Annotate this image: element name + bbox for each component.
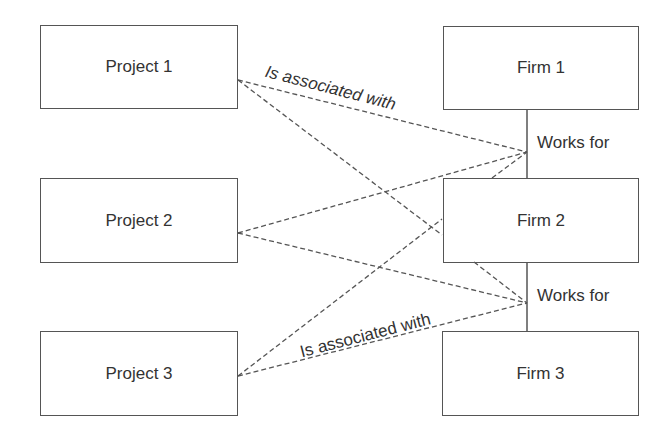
works-for-lower-label: Works for <box>537 286 609 306</box>
project-2-label: Project 2 <box>105 211 172 231</box>
link-firm2-worksfor2 <box>474 262 527 303</box>
project-3-label: Project 3 <box>105 364 172 384</box>
firm-1-label: Firm 1 <box>517 58 565 78</box>
firm-3-box: Firm 3 <box>442 331 639 416</box>
firm-1-box: Firm 1 <box>443 26 639 110</box>
project-1-label: Project 1 <box>105 57 172 77</box>
firm-2-label: Firm 2 <box>517 211 565 231</box>
project-1-box: Project 1 <box>40 25 238 109</box>
link-p1-firm2 <box>238 80 442 235</box>
project-3-box: Project 3 <box>40 331 238 416</box>
project-2-box: Project 2 <box>40 178 238 263</box>
firm-3-label: Firm 3 <box>516 364 564 384</box>
link-firm2-worksfor1 <box>492 152 527 178</box>
works-for-upper-label: Works for <box>537 133 609 153</box>
firm-2-box: Firm 2 <box>443 178 639 263</box>
